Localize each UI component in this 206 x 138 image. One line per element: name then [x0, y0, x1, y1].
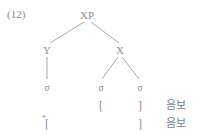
example-number: (12) [7, 9, 25, 20]
row1-gloss-label: 음보 [166, 100, 186, 111]
row1-open-bracket: [ [99, 100, 103, 112]
edge-x-sigma-left [102, 57, 118, 79]
row2-open-bracket: [ [45, 118, 49, 130]
prosodic-tree-figure: (12) XP Y X σ σ σ [ ] 음보 * [ ] 음보 [0, 0, 206, 138]
edge-xp-x [91, 22, 119, 43]
row2-gloss-label: 음보 [166, 118, 186, 129]
edge-xp-y [50, 22, 84, 43]
edge-x-sigma-right [122, 57, 139, 79]
row2-close-bracket: ] [138, 118, 142, 130]
tree-leaf-sigma-2: σ [99, 83, 104, 93]
tree-node-xp: XP [80, 10, 94, 21]
tree-node-x: X [116, 45, 124, 56]
row1-close-bracket: ] [138, 100, 142, 112]
tree-leaf-sigma-3: σ [138, 83, 143, 93]
tree-node-y: Y [43, 45, 51, 56]
tree-leaf-sigma-1: σ [45, 83, 50, 93]
